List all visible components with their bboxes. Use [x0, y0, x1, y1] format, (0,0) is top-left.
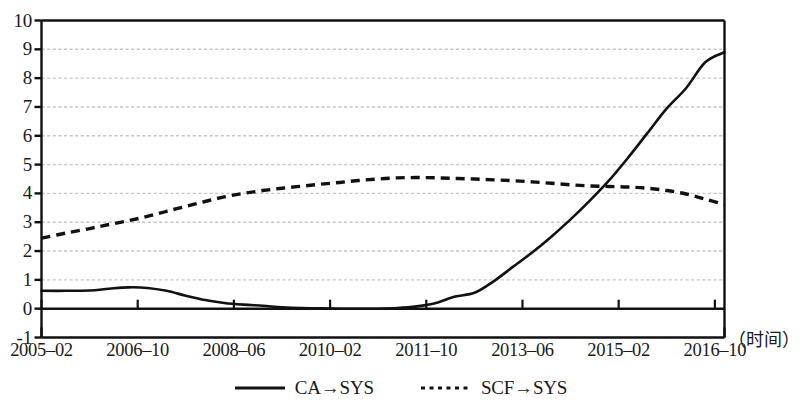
y-tick-label: 2: [0, 241, 32, 260]
legend-solid-line-icon: [234, 382, 286, 394]
data-series-group: [42, 52, 725, 309]
y-tick-label: 3: [0, 212, 32, 231]
x-axis-caption: （时间）: [728, 330, 800, 350]
x-tick-label: 2008–06: [179, 341, 289, 360]
y-tick-label: 5: [0, 155, 32, 174]
legend-dotted-line-icon: [420, 382, 472, 394]
x-tick-label: 2010–02: [275, 341, 385, 360]
y-tick-label: 0: [0, 299, 32, 318]
y-tick-label: 7: [0, 97, 32, 116]
y-tick-label: 4: [0, 183, 32, 202]
x-tick-label: 2013–06: [467, 341, 577, 360]
chart-figure: 109876543210-1 2005–022006–102008–062010…: [0, 0, 801, 408]
x-tick-marks-group: [42, 300, 725, 338]
y-tick-label: 6: [0, 126, 32, 145]
series-line-2: [42, 178, 725, 239]
series-line-1: [42, 52, 725, 309]
legend-item[interactable]: CA→SYS: [234, 378, 374, 397]
x-tick-label: 2011–10: [371, 341, 481, 360]
legend-label: SCF→SYS: [481, 378, 567, 397]
y-tick-label: 1: [0, 270, 32, 289]
chart-legend: CA→SYSSCF→SYS: [0, 378, 801, 397]
x-tick-label: 2015–02: [564, 341, 674, 360]
legend-item[interactable]: SCF→SYS: [420, 378, 567, 397]
y-tick-label: 8: [0, 68, 32, 87]
x-tick-label: 2006–10: [83, 341, 193, 360]
y-tick-label: 10: [0, 11, 32, 30]
y-tick-label: 9: [0, 39, 32, 58]
legend-label: CA→SYS: [295, 378, 374, 397]
